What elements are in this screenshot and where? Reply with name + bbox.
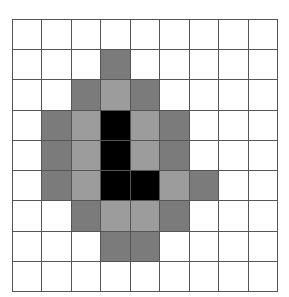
grid-cell-white <box>100 261 129 291</box>
grid-cell-white <box>71 231 100 261</box>
grid-cell-white <box>12 200 41 230</box>
grid-cell-white <box>218 79 247 109</box>
grid-cell-white <box>248 200 277 230</box>
grid-cell-black <box>100 110 129 140</box>
grid-cell-white <box>248 49 277 79</box>
grid-cell-white <box>159 79 188 109</box>
grid-cell-dark-gray <box>71 200 100 230</box>
grid-cell-white <box>189 261 218 291</box>
grid-cell-black <box>100 140 129 170</box>
grid-cell-dark-gray <box>130 231 159 261</box>
grid-cell-white <box>218 19 247 49</box>
grid-cell-dark-gray <box>189 170 218 200</box>
grid-cell-white <box>248 79 277 109</box>
grid-cell-white <box>218 140 247 170</box>
grid-cell-white <box>189 19 218 49</box>
grid-cell-white <box>248 110 277 140</box>
grid-cell-white <box>189 200 218 230</box>
grid-cell-white <box>248 140 277 170</box>
grid-cell-white <box>12 110 41 140</box>
grid-cell-white <box>71 261 100 291</box>
grid-cell-white <box>100 19 129 49</box>
grid-cell-dark-gray <box>130 79 159 109</box>
grid-cell-light-gray <box>130 110 159 140</box>
grid-cell-white <box>12 19 41 49</box>
grid-cell-light-gray <box>71 170 100 200</box>
grid-cell-white <box>218 261 247 291</box>
grid-cell-white <box>12 79 41 109</box>
pixel-grid <box>12 19 278 292</box>
grid-cell-white <box>189 49 218 79</box>
grid-cell-light-gray <box>130 200 159 230</box>
grid-cell-light-gray <box>71 140 100 170</box>
grid-cell-black <box>100 170 129 200</box>
grid-cell-white <box>41 79 70 109</box>
grid-cell-dark-gray <box>159 140 188 170</box>
grid-cell-white <box>248 261 277 291</box>
grid-cell-white <box>189 140 218 170</box>
grid-cell-dark-gray <box>41 170 70 200</box>
grid-cell-white <box>189 110 218 140</box>
grid-cell-white <box>159 19 188 49</box>
grid-cell-white <box>248 19 277 49</box>
grid-cell-white <box>130 49 159 79</box>
grid-cell-white <box>218 110 247 140</box>
grid-cell-light-gray <box>100 200 129 230</box>
grid-cell-white <box>130 19 159 49</box>
grid-cell-dark-gray <box>41 110 70 140</box>
grid-cell-white <box>71 19 100 49</box>
grid-cell-white <box>159 261 188 291</box>
grid-cell-white <box>218 170 247 200</box>
grid-cell-white <box>218 49 247 79</box>
grid-cell-white <box>12 170 41 200</box>
grid-cell-white <box>41 19 70 49</box>
grid-cell-white <box>12 231 41 261</box>
grid-cell-white <box>12 140 41 170</box>
grid-cell-black <box>130 170 159 200</box>
grid-cell-white <box>218 231 247 261</box>
grid-cell-white <box>41 49 70 79</box>
grid-cell-light-gray <box>159 170 188 200</box>
grid-cell-dark-gray <box>159 110 188 140</box>
grid-cell-dark-gray <box>159 200 188 230</box>
grid-cell-white <box>41 261 70 291</box>
grid-cell-white <box>248 170 277 200</box>
grid-cell-dark-gray <box>100 231 129 261</box>
grid-cell-white <box>41 231 70 261</box>
grid-cell-white <box>12 49 41 79</box>
grid-cell-white <box>159 49 188 79</box>
grid-cell-white <box>159 231 188 261</box>
grid-cell-white <box>41 200 70 230</box>
grid-cell-dark-gray <box>100 49 129 79</box>
grid-cell-dark-gray <box>41 140 70 170</box>
grid-cell-light-gray <box>100 79 129 109</box>
grid-cell-light-gray <box>71 110 100 140</box>
grid-cell-white <box>12 261 41 291</box>
grid-cell-white <box>248 231 277 261</box>
grid-cell-white <box>189 79 218 109</box>
grid-cell-white <box>130 261 159 291</box>
grid-cell-white <box>218 200 247 230</box>
grid-cell-light-gray <box>130 140 159 170</box>
grid-cell-dark-gray <box>71 79 100 109</box>
grid-cell-white <box>189 231 218 261</box>
grid-cell-white <box>71 49 100 79</box>
